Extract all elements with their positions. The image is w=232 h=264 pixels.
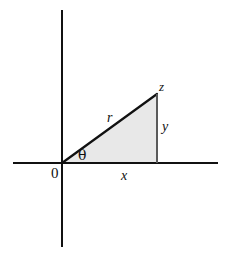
apex-label-z: z bbox=[159, 80, 164, 93]
figure-container: 0 θ x y r z bbox=[0, 0, 232, 264]
origin-label: 0 bbox=[51, 166, 59, 181]
angle-theta-label: θ bbox=[78, 148, 86, 162]
horizontal-leg-label-x: x bbox=[121, 169, 127, 183]
hypotenuse-label-r: r bbox=[107, 111, 112, 125]
coordinate-diagram-svg bbox=[0, 0, 232, 264]
vertical-leg-label-y: y bbox=[162, 120, 168, 134]
